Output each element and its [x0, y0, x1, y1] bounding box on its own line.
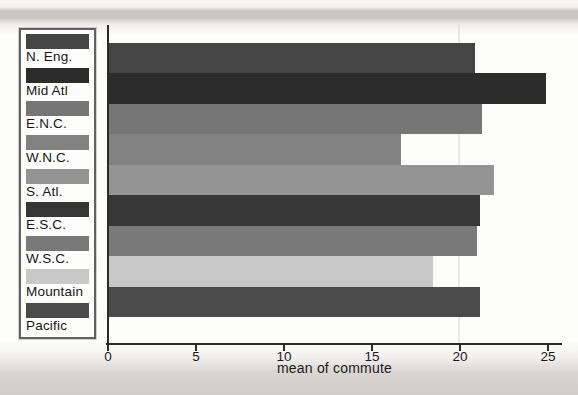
bar-w-n-c [109, 134, 401, 164]
x-axis-label: mean of commute [108, 360, 561, 376]
scanned-figure: N. Eng.Mid AtlE.N.C.W.N.C.S. Atl.E.S.C.W… [0, 0, 578, 395]
x-axis-line [106, 343, 562, 345]
bar-e-s-c [109, 195, 480, 225]
bar-s-atl [109, 165, 494, 195]
bar-pacific [109, 287, 480, 317]
plot-area: 0510152025 mean of commute [0, 0, 578, 395]
bar-n-eng [109, 43, 475, 73]
bar-w-s-c [109, 226, 477, 256]
bar-e-n-c [109, 104, 482, 134]
bars [109, 43, 562, 317]
bar-mountain [109, 256, 433, 286]
y-axis-line [107, 25, 109, 344]
bar-mid-atl [109, 73, 546, 103]
